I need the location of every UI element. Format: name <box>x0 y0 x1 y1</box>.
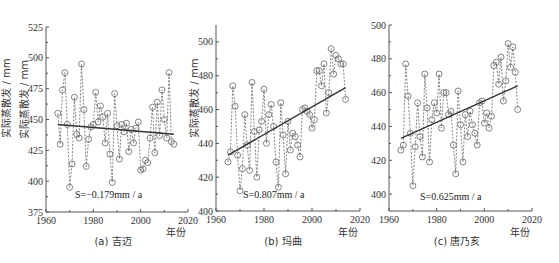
y-tick-label: 500 <box>28 52 43 63</box>
data-point-marker <box>67 184 73 190</box>
x-tick-label: 2020 <box>350 214 370 225</box>
x-tick-label: 2020 <box>178 215 198 226</box>
y-axis-title: 实际蒸散发 / mm <box>188 58 200 137</box>
y-axis-title: 实际蒸散发 / mm <box>18 60 30 139</box>
x-axis-title: 年份 <box>166 226 186 238</box>
y-tick-label: 400 <box>371 189 386 200</box>
x-axis-title: 年份 <box>510 226 530 238</box>
x-tick-label: 1960 <box>36 215 56 226</box>
figure: 3754004254504755005251960198020002020实际蒸… <box>0 0 559 263</box>
y-tick-label: 420 <box>371 155 386 166</box>
data-point-marker <box>150 104 156 110</box>
panel-b: 4004204404604805001960198020002020实际蒸散发 … <box>188 25 370 247</box>
data-series-line <box>401 44 518 186</box>
x-tick-label: 2000 <box>131 215 151 226</box>
data-point-marker <box>515 107 521 113</box>
data-point-marker <box>438 125 444 131</box>
x-tick-label: 1980 <box>427 214 447 225</box>
y-tick-label: 480 <box>371 53 386 64</box>
panel-a: 3754004254504755005251960198020002020实际蒸… <box>18 22 198 248</box>
panel-caption: (a) 吉迈 <box>94 236 131 247</box>
x-axis-title: 年份 <box>338 226 358 238</box>
y-tick-label: 450 <box>28 114 43 125</box>
x-tick-label: 2020 <box>522 214 542 225</box>
y-tick-label: 525 <box>28 22 43 33</box>
data-point-marker <box>295 142 301 148</box>
y-tick-label: 440 <box>371 121 386 132</box>
panel-c: 4004204404604805001960198020002020实际蒸散发 … <box>0 20 542 248</box>
chart-canvas: 3754004254504755005251960198020002020实际蒸… <box>0 0 559 263</box>
y-tick-label: 480 <box>198 70 213 81</box>
x-tick-label: 1960 <box>379 214 399 225</box>
x-tick-label: 2000 <box>474 214 494 225</box>
y-tick-label: 400 <box>28 176 43 187</box>
y-tick-label: 460 <box>198 104 213 115</box>
y-tick-label: 420 <box>198 172 213 183</box>
y-tick-label: 440 <box>198 138 213 149</box>
x-tick-label: 1980 <box>254 214 274 225</box>
trend-line <box>58 124 174 134</box>
panel-caption: (b) 玛曲 <box>264 236 301 247</box>
y-tick-label: 425 <box>28 145 43 156</box>
y-tick-label: 460 <box>371 87 386 98</box>
panel-caption: (c) 唐乃亥 <box>434 235 480 247</box>
y-tick-label: 500 <box>198 36 213 47</box>
x-tick-label: 1960 <box>206 214 226 225</box>
y-axis-title: 实际蒸散发 / mm <box>0 58 12 137</box>
y-tick-label: 475 <box>28 83 43 94</box>
x-tick-label: 1980 <box>83 215 103 226</box>
x-tick-label: 2000 <box>302 214 322 225</box>
slope-annotation: S=0.625mm / a <box>420 191 482 202</box>
slope-annotation: S=0.807mm / a <box>243 189 305 200</box>
slope-annotation: S=−0.179mm / a <box>75 189 143 200</box>
y-tick-label: 500 <box>371 20 386 31</box>
